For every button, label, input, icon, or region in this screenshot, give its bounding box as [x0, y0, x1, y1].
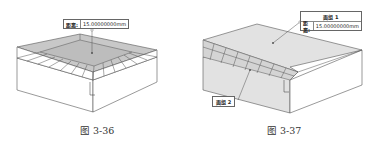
- distance-value: 15.00000000mm: [314, 23, 361, 29]
- distance-callout-set-1: 面组 1 距离: 15.00000000mm: [300, 11, 362, 31]
- figure-caption: 图 3-36: [80, 123, 114, 137]
- surface-set-2-tag: 面组 2: [212, 96, 235, 107]
- distance-label: 距离:: [64, 20, 81, 28]
- figure-caption: 图 3-37: [267, 123, 301, 137]
- distance-callout: 距离: 15.00000000mm: [63, 19, 129, 29]
- distance-label: 距离:: [301, 22, 314, 30]
- figure-3-37: 面组 1 距离: 15.00000000mm 面组 2 图 3-37: [190, 0, 381, 144]
- distance-value: 15.00000000mm: [81, 21, 128, 27]
- figure-3-36: 距离: 15.00000000mm 图 3-36: [0, 0, 190, 144]
